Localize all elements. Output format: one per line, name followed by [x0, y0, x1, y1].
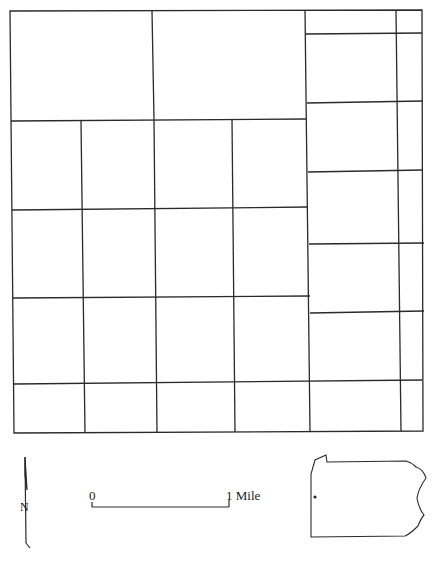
row-line-4: [14, 380, 422, 384]
outer-boundary: [10, 10, 423, 433]
scale-end-label: 1 Mile: [226, 488, 260, 504]
right-row-line-3: [308, 170, 423, 172]
right-section-boundary: [305, 10, 310, 432]
col-divider-2: [154, 120, 157, 432]
township-map: [0, 0, 439, 563]
col-divider-3: [232, 119, 235, 432]
location-dot: [313, 495, 316, 498]
row-line-1: [11, 119, 306, 121]
right-row-line-4: [309, 243, 424, 244]
row-line-3: [13, 296, 310, 298]
col-divider-1: [81, 121, 85, 433]
top-row-divider: [152, 11, 154, 120]
row-line-2: [12, 207, 308, 210]
parcel-grid: [10, 10, 424, 433]
right-row-line-2: [307, 101, 423, 103]
scale-bar-icon: [92, 500, 229, 507]
state-outline-icon: [311, 455, 426, 537]
right-row-line-1: [306, 33, 422, 34]
north-label: N: [20, 500, 29, 515]
right-row-line-5: [310, 311, 424, 313]
scale-start-label: 0: [89, 488, 96, 504]
right-column-divider: [396, 10, 401, 431]
